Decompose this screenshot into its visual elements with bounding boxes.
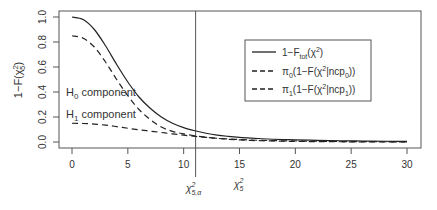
y-tick-label: 0.6 [37,60,48,74]
x-tick-label: 0 [69,159,75,170]
critical-value-label: χ25,α [185,181,202,196]
y-axis: 0.00.20.40.60.81.0 [37,10,59,149]
x-tick-label: 5 [125,159,131,170]
y-tick-label: 0.0 [37,135,48,149]
x-tick-label: 25 [346,159,358,170]
chart-container: 0.00.20.40.60.81.0 051015202530 1−F(χ25)… [0,0,437,210]
x-axis: 051015202530 [69,148,413,170]
x-tick-label: 30 [401,159,413,170]
x-tick-label: 10 [178,159,190,170]
x-tick-label: 15 [234,159,246,170]
y-tick-label: 0.4 [37,85,48,99]
test-statistic-label: χ25 [233,177,243,192]
y-axis-label: 1−F(χ25) [11,62,27,98]
y-tick-label: 1.0 [37,10,48,24]
curve-2 [72,123,407,142]
legend-item-h0: π0(1−F(χ2|ncp0)) [282,65,355,79]
h1-component-label: H1 component [66,108,136,123]
legend: 1−Ftot(χ2) π0(1−F(χ2|ncp0)) π1(1−F(χ2|nc… [245,40,371,101]
h0-component-label: H0 component [66,86,136,101]
legend-item-h1: π1(1−F(χ2|ncp1)) [282,83,355,97]
y-tick-label: 0.8 [37,35,48,49]
x-tick-label: 20 [290,159,302,170]
y-tick-label: 0.2 [37,110,48,124]
